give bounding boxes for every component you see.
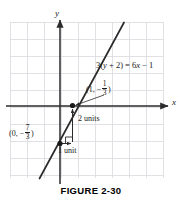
run-label: 1 unit bbox=[58, 147, 76, 155]
intercept-label-fraction: 73 bbox=[25, 124, 31, 141]
equation-middle: + 2) = 6 bbox=[107, 60, 136, 70]
y-intercept-label: (0, −73) bbox=[9, 124, 34, 141]
figure-container: y x 3(y + 2) = 6x − 1 (1, −13) (0, −73) … bbox=[0, 0, 182, 204]
right-angle-marker bbox=[66, 137, 73, 144]
intercept-label-open: (0, − bbox=[9, 129, 24, 138]
point-label-denominator: 3 bbox=[102, 89, 108, 97]
point-label-close: ) bbox=[108, 85, 111, 94]
x-axis-label: x bbox=[172, 98, 176, 107]
point-label-open: (1, − bbox=[86, 85, 101, 94]
rise-label: 2 units bbox=[78, 115, 100, 123]
coordinate-plane-graph bbox=[0, 0, 182, 204]
graph-line bbox=[40, 23, 125, 179]
equation-label: 3(y + 2) = 6x − 1 bbox=[96, 61, 153, 70]
intercept-label-denominator: 3 bbox=[25, 133, 31, 141]
intercept-label-close: ) bbox=[31, 129, 34, 138]
equation-suffix: − 1 bbox=[140, 60, 153, 70]
point-label-fraction: 13 bbox=[102, 80, 108, 97]
y-axis-label: y bbox=[55, 9, 59, 18]
point-label-one-neg-one-third: (1, −13) bbox=[86, 80, 111, 97]
grid-lines bbox=[10, 22, 163, 178]
axes bbox=[6, 20, 168, 184]
figure-caption: FIGURE 2-30 bbox=[0, 185, 182, 196]
point-marker-1-neg-one-third bbox=[70, 103, 75, 108]
